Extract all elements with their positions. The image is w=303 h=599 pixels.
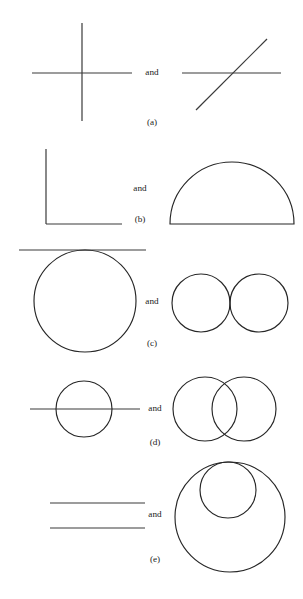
panel-b-left <box>46 149 122 224</box>
panel-a-right <box>182 39 281 110</box>
panel-e-conjunction-label: and <box>148 509 162 519</box>
panel-e-right-circle-0 <box>175 462 285 572</box>
figure-container: and(a)and(b)and(c)and(d)and(e) <box>0 0 303 599</box>
panel-d-right-circle-1 <box>212 377 276 441</box>
panel-c-left-circle-0 <box>34 250 136 352</box>
panel-a-right-line-1 <box>196 39 267 110</box>
panel-c-caption: (c) <box>147 338 157 348</box>
panel-e <box>50 462 285 572</box>
panel-a-caption: (a) <box>147 117 157 127</box>
panel-a-conjunction-label: and <box>145 67 159 77</box>
panel-e-left <box>50 503 145 528</box>
panel-e-right <box>175 462 285 572</box>
panel-d-caption: (d) <box>150 437 161 447</box>
labels-group: and(a)and(b)and(c)and(d)and(e) <box>133 67 162 564</box>
panel-c-conjunction-label: and <box>145 296 159 306</box>
panel-b-right <box>170 162 294 224</box>
panel-b-caption: (b) <box>135 214 146 224</box>
panel-b-right-semicircle <box>170 162 294 224</box>
panel-a-left <box>32 23 132 121</box>
panel-d-right-circle-0 <box>173 377 237 441</box>
panel-c-left <box>19 250 146 352</box>
panel-c-right-circle-0 <box>172 274 230 332</box>
panel-c-right <box>172 274 288 332</box>
topological-equivalence-figure: and(a)and(b)and(c)and(d)and(e) <box>0 0 303 599</box>
panel-b <box>46 149 294 224</box>
panel-d-conjunction-label: and <box>148 403 162 413</box>
panel-d-right <box>173 377 276 441</box>
panel-b-conjunction-label: and <box>133 183 147 193</box>
panel-d-left <box>30 381 140 437</box>
panel-c-right-circle-1 <box>230 274 288 332</box>
panel-e-right-circle-1 <box>200 462 256 518</box>
panel-e-caption: (e) <box>150 554 160 564</box>
